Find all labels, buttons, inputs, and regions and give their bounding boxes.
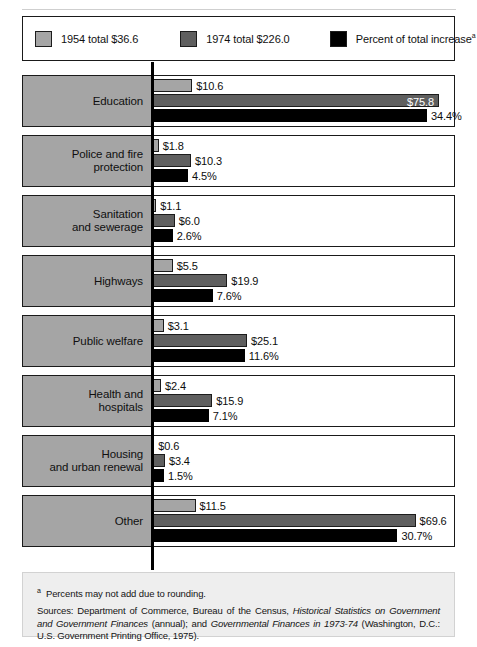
bar-percent-value-label: 11.6% [249, 350, 279, 362]
bar-1954-value-label: $1.8 [163, 140, 184, 152]
bar-1954-line: $1.1 [152, 199, 181, 212]
bar-1954-value-label: $1.1 [160, 200, 181, 212]
row-plot-area: $3.1$25.111.6% [152, 316, 454, 366]
bar-1974-bar [152, 334, 247, 347]
bar-1974-value-label: $15.9 [216, 395, 243, 407]
bar-percent-line: 11.6% [152, 349, 279, 362]
row-plot-area: $1.8$10.34.5% [152, 136, 454, 186]
bar-1974-value-label: $25.1 [251, 335, 278, 347]
bar-1974-bar [152, 514, 416, 527]
bar-percent-line: 30.7% [152, 529, 432, 542]
legend-swatch-1954-icon [35, 31, 52, 47]
notes-block: a Percents may not add due to rounding. … [22, 572, 455, 637]
bar-1954-value-label: $0.6 [158, 440, 179, 452]
bar-percent-bar [152, 289, 213, 302]
sources-text: Sources: Department of Commerce, Bureau … [37, 605, 440, 643]
row-category-label: Public welfare [23, 316, 152, 366]
bar-1974-bar [152, 274, 227, 287]
bar-1954-line: $0.6 [152, 439, 179, 452]
chart-row: Sanitationand sewerage$1.1$6.02.6% [22, 195, 455, 247]
bar-1954-line: $1.8 [152, 139, 184, 152]
row-plot-area: $1.1$6.02.6% [152, 196, 454, 246]
row-plot-area: $2.4$15.97.1% [152, 376, 454, 426]
chart-row: Highways$5.5$19.97.6% [22, 255, 455, 307]
bar-1954-bar [152, 499, 196, 512]
bar-percent-bar [152, 109, 427, 122]
bar-1974-bar [152, 214, 175, 227]
chart-row: Other$11.5$69.630.7% [22, 495, 455, 547]
bar-1974-bar: $75.8 [152, 94, 439, 107]
bar-percent-value-label: 7.1% [213, 410, 238, 422]
bar-1974-line: $75.8 [152, 94, 439, 107]
bar-percent-line: 1.5% [152, 469, 193, 482]
bar-percent-value-label: 7.6% [217, 290, 242, 302]
bar-percent-value-label: 2.6% [177, 230, 202, 242]
legend-label-1974: 1974 total $226.0 [206, 33, 289, 45]
legend-label-percent: Percent of total increasea [356, 32, 476, 45]
bar-1974-line: $6.0 [152, 214, 200, 227]
row-category-label: Housingand urban renewal [23, 436, 152, 486]
bar-percent-line: 2.6% [152, 229, 201, 242]
row-category-label: Police and fireprotection [23, 136, 152, 186]
bar-percent-value-label: 34.4% [431, 110, 462, 122]
zero-axis-line [151, 62, 154, 570]
bar-1974-bar [152, 394, 212, 407]
legend-swatch-1974-icon [180, 31, 197, 47]
bar-1974-line: $15.9 [152, 394, 243, 407]
bar-1954-line: $10.6 [152, 79, 223, 92]
bar-1954-value-label: $10.6 [196, 80, 223, 92]
bar-1954-value-label: $5.5 [177, 260, 198, 272]
legend-item-percent: Percent of total increasea [330, 31, 476, 47]
bar-1954-line: $2.4 [152, 379, 186, 392]
bar-percent-line: 7.1% [152, 409, 237, 422]
bar-1974-value-label: $19.9 [231, 275, 258, 287]
bar-percent-bar [152, 409, 209, 422]
row-category-label: Highways [23, 256, 152, 306]
legend-label-1954: 1954 total $36.6 [61, 33, 138, 45]
legend-item-1954: 1954 total $36.6 [35, 31, 138, 47]
chart-row: Housingand urban renewal$0.6$3.41.5% [22, 435, 455, 487]
bar-1974-line: $69.6 [152, 514, 447, 527]
bar-percent-line: 7.6% [152, 289, 241, 302]
row-category-label: Other [23, 496, 152, 546]
bar-percent-bar [152, 529, 397, 542]
row-plot-area: $10.6$75.834.4% [152, 76, 454, 126]
bar-1974-value-label: $3.4 [169, 455, 190, 467]
bar-1954-value-label: $11.5 [200, 500, 226, 512]
row-category-label: Health andhospitals [23, 376, 152, 426]
bar-1954-bar [152, 79, 192, 92]
bar-1974-value-label: $75.8 [407, 95, 434, 108]
bar-1954-line: $5.5 [152, 259, 198, 272]
row-plot-area: $11.5$69.630.7% [152, 496, 454, 546]
bar-percent-value-label: 1.5% [168, 470, 193, 482]
chart-rows: Education$10.6$75.834.4%Police and firep… [22, 75, 455, 555]
bar-1974-line: $25.1 [152, 334, 278, 347]
top-rule [22, 9, 456, 10]
footnote-text: a Percents may not add due to rounding. [37, 585, 440, 600]
bar-1974-value-label: $6.0 [179, 215, 200, 227]
bar-percent-line: 4.5% [152, 169, 217, 182]
row-plot-area: $0.6$3.41.5% [152, 436, 454, 486]
bar-1974-bar [152, 154, 191, 167]
row-category-label: Sanitationand sewerage [23, 196, 152, 246]
bar-percent-bar [152, 229, 173, 242]
bar-1974-line: $10.3 [152, 154, 222, 167]
bar-percent-value-label: 4.5% [192, 170, 217, 182]
bar-1974-value-label: $10.3 [195, 155, 222, 167]
bar-percent-bar [152, 349, 245, 362]
legend-item-1974: 1974 total $226.0 [180, 31, 289, 47]
bar-1954-line: $3.1 [152, 319, 189, 332]
chart-row: Education$10.6$75.834.4% [22, 75, 455, 127]
chart-row: Public welfare$3.1$25.111.6% [22, 315, 455, 367]
chart-row: Health andhospitals$2.4$15.97.1% [22, 375, 455, 427]
bar-1954-bar [152, 259, 173, 272]
bar-1954-value-label: $3.1 [168, 320, 189, 332]
bar-1974-line: $3.4 [152, 454, 190, 467]
chart-page: 1954 total $36.6 1974 total $226.0 Perce… [0, 0, 477, 647]
bar-1974-value-label: $69.6 [420, 515, 447, 527]
row-plot-area: $5.5$19.97.6% [152, 256, 454, 306]
chart-row: Police and fireprotection$1.8$10.34.5% [22, 135, 455, 187]
bar-1954-value-label: $2.4 [165, 380, 186, 392]
bar-1974-line: $19.9 [152, 274, 258, 287]
bar-percent-line: 34.4% [152, 109, 462, 122]
